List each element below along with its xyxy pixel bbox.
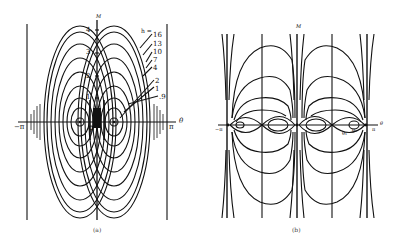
x-tick-pi: π <box>169 124 174 131</box>
theta-axis-label: θ <box>179 118 183 125</box>
contour-level-2: 2 <box>155 78 159 85</box>
x-tick-neg-pi: −π <box>215 127 222 132</box>
m-axis-label: M <box>96 14 101 19</box>
m-axis-label: M <box>296 24 301 29</box>
panel-a-contours <box>0 0 200 242</box>
y-tick-4: 4 <box>86 27 90 34</box>
panel-a-contour-plot: M θ −π 0 π 1 2 3 4 h = 16 13 10 7 4 2 1 … <box>0 0 200 242</box>
contour-level-16: 16 <box>153 32 162 39</box>
contour-level-0-9: .9 <box>159 94 166 101</box>
contour-level-13: 13 <box>153 41 162 48</box>
y-tick-2: 2 <box>86 73 90 80</box>
y-tick-1: 1 <box>86 94 90 101</box>
point-label-theta1: θ₁ <box>342 131 347 136</box>
theta-axis-label: θ <box>380 121 383 126</box>
panel-b-contour-plot: M θ −π π θ₁ θ₂ (b) <box>200 0 395 242</box>
contour-level-7: 7 <box>153 57 157 64</box>
point-label-theta2: θ₂ <box>352 128 357 133</box>
panel-b-contours <box>200 0 395 242</box>
contour-level-4: 4 <box>153 65 157 72</box>
contour-label-header: h = <box>141 28 152 34</box>
x-tick-origin: 0 <box>89 127 93 133</box>
panel-b-caption: (b) <box>292 226 301 233</box>
panel-a-caption: (a) <box>93 226 101 233</box>
x-tick-neg-pi: −π <box>14 124 24 131</box>
contour-level-10: 10 <box>153 49 162 56</box>
contour-level-1: 1 <box>155 86 159 93</box>
y-tick-3: 3 <box>86 49 90 56</box>
x-tick-pi: π <box>372 127 375 132</box>
